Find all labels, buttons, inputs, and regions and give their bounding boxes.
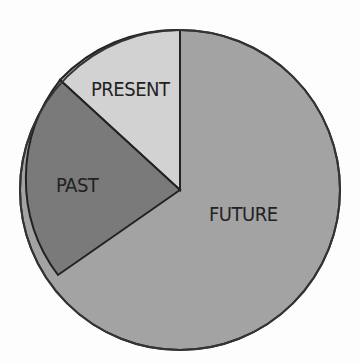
label-past: PAST: [56, 173, 100, 197]
label-present: PRESENT: [91, 77, 171, 101]
pie-chart: PRESENT PAST FUTURE: [0, 0, 360, 362]
label-future: FUTURE: [209, 202, 278, 226]
